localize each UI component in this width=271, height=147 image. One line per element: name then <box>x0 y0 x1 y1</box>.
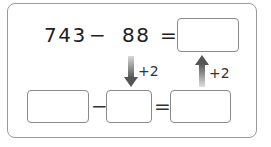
down-arrow-icon <box>124 56 138 88</box>
up-arrow-label: +2 <box>209 66 230 80</box>
equals-sign: = <box>160 25 178 45</box>
helper-box-3[interactable] <box>170 90 231 123</box>
subtrahend: 88 <box>122 25 150 45</box>
answer-box[interactable] <box>177 18 239 52</box>
helper-box-1[interactable] <box>27 90 89 123</box>
helper-equals-sign: = <box>154 96 171 116</box>
minuend: 743 <box>44 25 87 45</box>
helper-box-2[interactable] <box>106 90 152 123</box>
down-arrow-label: +2 <box>138 64 159 78</box>
minus-sign: − <box>89 25 107 45</box>
up-arrow-icon <box>195 55 209 87</box>
